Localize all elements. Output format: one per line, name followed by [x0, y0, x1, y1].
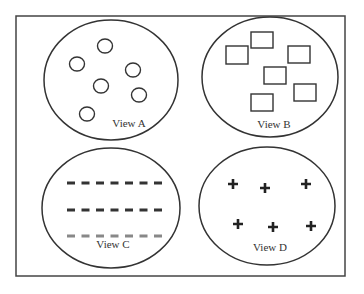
square-shape	[288, 46, 310, 63]
view-d-label: View D	[253, 241, 287, 253]
dash-shape	[154, 209, 162, 212]
dash-shape	[125, 209, 133, 212]
square-shape	[294, 84, 316, 101]
dash-shape	[67, 235, 75, 238]
square-shape	[264, 67, 286, 84]
dash-shape	[96, 209, 104, 212]
view-c-label: View C	[96, 238, 129, 250]
circle-shape	[70, 57, 85, 71]
view-b-label: View B	[257, 118, 290, 130]
square-shape	[226, 46, 248, 64]
dash-shape	[140, 209, 148, 212]
square-shape	[251, 32, 273, 48]
view-b-panel: View B	[202, 17, 338, 137]
view-d-plus-signs	[228, 179, 316, 232]
dash-shape	[140, 182, 148, 185]
view-a-panel: View A	[44, 20, 178, 140]
dash-shape	[82, 182, 90, 185]
circle-shape	[126, 63, 141, 77]
plus-shape	[268, 222, 278, 232]
dash-shape	[96, 182, 104, 185]
dash-shape	[82, 235, 90, 238]
view-c-dashes	[67, 182, 162, 238]
plus-shape	[228, 179, 238, 189]
view-a-label: View A	[112, 117, 145, 129]
circle-shape	[132, 88, 147, 102]
dash-shape	[111, 182, 119, 185]
dash-shape	[154, 182, 162, 185]
circle-shape	[98, 39, 113, 53]
plus-shape	[260, 183, 270, 193]
view-a-circles	[70, 39, 147, 121]
circle-shape	[80, 107, 95, 121]
dash-shape	[67, 209, 75, 212]
view-d-panel: View D	[199, 147, 335, 265]
plus-shape	[306, 221, 316, 231]
plus-shape	[301, 179, 311, 189]
circle-shape	[94, 79, 109, 93]
view-c-panel: View C	[42, 148, 180, 268]
view-a-ellipse	[44, 20, 178, 140]
dash-shape	[125, 182, 133, 185]
view-b-squares	[226, 32, 316, 111]
dash-shape	[82, 209, 90, 212]
dash-shape	[67, 182, 75, 185]
outer-frame	[16, 16, 345, 276]
dash-shape	[111, 209, 119, 212]
dash-shape	[140, 235, 148, 238]
square-shape	[251, 94, 273, 111]
view-c-ellipse	[42, 148, 180, 268]
plus-shape	[233, 219, 243, 229]
dash-shape	[154, 235, 162, 238]
views-diagram: View A View B View C View D	[0, 0, 364, 294]
